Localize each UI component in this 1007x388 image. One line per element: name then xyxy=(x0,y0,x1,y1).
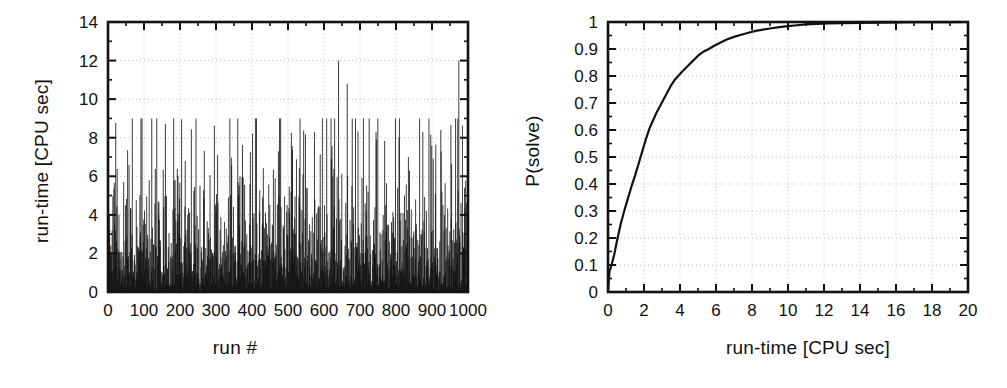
svg-text:700: 700 xyxy=(346,301,374,320)
svg-text:0.9: 0.9 xyxy=(574,40,598,59)
svg-text:400: 400 xyxy=(238,301,266,320)
svg-text:0.5: 0.5 xyxy=(574,148,598,167)
svg-text:600: 600 xyxy=(310,301,338,320)
svg-text:0.1: 0.1 xyxy=(574,256,598,275)
svg-text:0.2: 0.2 xyxy=(574,229,598,248)
x-tick-labels: 02468101214161820 xyxy=(603,301,977,320)
svg-text:200: 200 xyxy=(166,301,194,320)
grid-lines xyxy=(608,22,968,292)
svg-text:900: 900 xyxy=(418,301,446,320)
x-tick-labels: 01002003004005006007008009001000 xyxy=(103,301,487,320)
svg-text:300: 300 xyxy=(202,301,230,320)
svg-text:100: 100 xyxy=(130,301,158,320)
svg-text:12: 12 xyxy=(79,52,98,71)
svg-text:4: 4 xyxy=(89,206,98,225)
svg-text:4: 4 xyxy=(675,301,684,320)
svg-text:2: 2 xyxy=(89,244,98,263)
x-axis-title-right: run-time [CPU sec] xyxy=(608,337,1007,359)
svg-text:10: 10 xyxy=(779,301,798,320)
svg-text:8: 8 xyxy=(747,301,756,320)
svg-text:0: 0 xyxy=(103,301,112,320)
figure-container: 0100200300400500600700800900100002468101… xyxy=(0,0,1007,388)
svg-text:8: 8 xyxy=(89,129,98,148)
svg-text:1000: 1000 xyxy=(449,301,487,320)
svg-text:0: 0 xyxy=(89,283,98,302)
svg-text:0.3: 0.3 xyxy=(574,202,598,221)
y-tick-labels: 00.10.20.30.40.50.60.70.80.91 xyxy=(574,13,598,302)
svg-text:800: 800 xyxy=(382,301,410,320)
svg-text:1: 1 xyxy=(589,13,598,32)
svg-text:6: 6 xyxy=(89,167,98,186)
svg-text:0: 0 xyxy=(603,301,612,320)
svg-text:14: 14 xyxy=(79,13,98,32)
y-axis-title-right: P(solve) xyxy=(522,66,544,236)
svg-text:14: 14 xyxy=(851,301,870,320)
svg-text:0.7: 0.7 xyxy=(574,94,598,113)
svg-text:0.4: 0.4 xyxy=(574,175,598,194)
svg-text:0.8: 0.8 xyxy=(574,67,598,86)
panel-runtime-per-run: 0100200300400500600700800900100002468101… xyxy=(0,0,500,388)
p-solve-cdf-plot: 0246810121416182000.10.20.30.40.50.60.70… xyxy=(500,0,1007,330)
x-axis-title-left: run # xyxy=(0,337,470,359)
svg-text:0.6: 0.6 xyxy=(574,121,598,140)
y-axis-title-left: run-time [CPU sec] xyxy=(31,31,53,291)
y-tick-labels: 02468101214 xyxy=(79,13,98,302)
runtime-per-run-plot: 0100200300400500600700800900100002468101… xyxy=(0,0,500,330)
svg-text:0: 0 xyxy=(589,283,598,302)
svg-text:10: 10 xyxy=(79,90,98,109)
svg-text:12: 12 xyxy=(815,301,834,320)
svg-text:16: 16 xyxy=(887,301,906,320)
svg-text:6: 6 xyxy=(711,301,720,320)
panel-p-solve-cdf: 0246810121416182000.10.20.30.40.50.60.70… xyxy=(500,0,1007,388)
svg-text:20: 20 xyxy=(959,301,978,320)
svg-text:18: 18 xyxy=(923,301,942,320)
svg-text:2: 2 xyxy=(639,301,648,320)
svg-text:500: 500 xyxy=(274,301,302,320)
